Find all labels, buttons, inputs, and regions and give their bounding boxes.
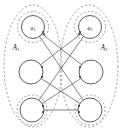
node-label-subscript: 2 [91,26,93,31]
edge-l3-r2 [42,78,81,103]
edge-endpoint-dot [42,111,44,113]
node-label-subscript: 1 [34,26,36,31]
node-l2[interactable] [19,60,43,84]
edge-l2-r3 [41,78,80,103]
edge-endpoint-dot [78,111,80,113]
cluster-label-subscript: 1 [17,47,19,52]
edge-endpoint-dot [78,105,80,107]
edge-endpoint-dot [79,66,81,68]
figure-container: a1a2 A1A2 [0,0,123,129]
cluster-label-subscript: 2 [105,47,108,52]
node-l3[interactable] [20,98,44,122]
node-r2[interactable] [79,60,103,84]
edge-endpoint-dot [42,105,44,107]
edge-endpoint-dot [41,66,43,68]
edge-endpoint-dot [41,76,43,78]
edge-endpoint-dot [79,76,81,78]
edge-endpoint-dot [43,33,45,35]
edge-endpoint-dot [79,31,81,33]
cluster-label-a1: A1 [12,43,20,52]
cluster-label-a2: A2 [100,43,109,52]
node-r3[interactable] [78,98,102,122]
graph-diagram: a1a2 A1A2 [0,0,123,129]
edge-endpoint-dot [42,31,44,33]
edge-layer [39,34,84,110]
edge-endpoint-dot [78,33,80,35]
